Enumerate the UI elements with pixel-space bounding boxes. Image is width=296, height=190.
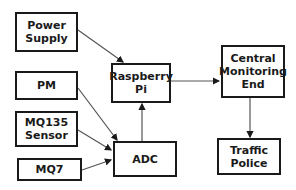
- arrow-mq7-to-adc: [82, 160, 111, 170]
- arrow-power-to-pi: [78, 30, 123, 62]
- node-mq7: MQ7: [17, 158, 82, 181]
- node-adc: ADC: [113, 141, 177, 177]
- node-mq135-sensor: MQ135 Sensor: [15, 111, 78, 147]
- node-power-supply: Power Supply: [15, 12, 78, 52]
- node-raspberry-pi: Raspberry Pi: [111, 63, 171, 103]
- node-traffic-police: Traffic Police: [217, 138, 281, 175]
- node-central-monitoring-end: Central Monitoring End: [221, 45, 285, 98]
- node-pm: PM: [15, 71, 78, 100]
- arrow-mq135-to-adc: [78, 130, 111, 150]
